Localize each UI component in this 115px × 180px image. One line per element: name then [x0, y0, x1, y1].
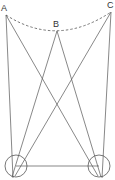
line-c-right — [102, 12, 111, 178]
label-b: B — [53, 19, 59, 29]
label-c: C — [107, 0, 114, 10]
label-a: A — [1, 3, 7, 13]
line-c-left — [15, 12, 111, 176]
line-b-right — [57, 31, 101, 177]
geometry-diagram: A B C — [0, 0, 115, 180]
line-a-left — [6, 15, 13, 178]
